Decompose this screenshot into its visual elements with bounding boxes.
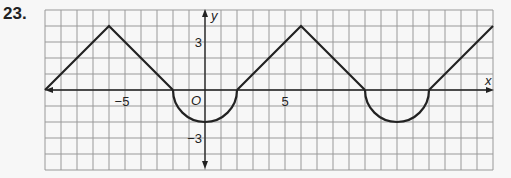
x-axis-label: x bbox=[484, 73, 492, 88]
graph: x y O −553−3 bbox=[0, 0, 511, 178]
x-tick-label: 5 bbox=[281, 94, 288, 109]
origin-label: O bbox=[191, 93, 201, 108]
y-tick-label: 3 bbox=[195, 35, 202, 50]
y-tick-label: −3 bbox=[187, 131, 202, 146]
x-tick-label: −5 bbox=[115, 94, 130, 109]
y-axis bbox=[202, 9, 208, 169]
